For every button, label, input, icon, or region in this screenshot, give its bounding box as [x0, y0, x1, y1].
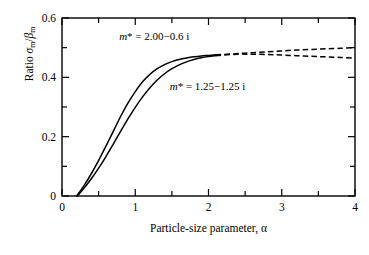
y-axis-title-denominator: β	[23, 33, 35, 39]
annotation-0-imaginary: 0.6 i	[170, 30, 190, 42]
y-axis-title-numerator-sub: m	[28, 42, 37, 48]
x-tick-label-4: 4	[352, 201, 358, 213]
figure-container: 0123400.20.40.6 Particle-size parameter,…	[0, 0, 369, 255]
curve-dashed-1	[216, 54, 355, 58]
annotation-0-star: *	[127, 30, 133, 42]
series-annotation-0: m* = 2.00−0.6 i	[119, 30, 189, 42]
x-tick-label-0: 0	[59, 201, 65, 213]
axis-ticks	[62, 18, 355, 196]
y-axis-title-slash: /	[23, 39, 35, 42]
annotation-1-imaginary: 1.25 i	[220, 80, 245, 92]
axis-frame	[62, 18, 355, 196]
annotation-0-equals: = 2.00	[135, 30, 163, 42]
y-axis-title-numerator: σ	[23, 48, 35, 54]
x-tick-label-3: 3	[279, 201, 285, 213]
curve-solid-0	[77, 55, 216, 196]
annotation-1-symbol: m	[170, 80, 178, 92]
annotation-1-star: *	[178, 80, 184, 92]
data-curves	[77, 48, 355, 196]
annotation-1-equals: = 1.25	[186, 80, 214, 92]
x-axis-title: Particle-size parameter, α	[62, 222, 355, 234]
y-tick-label-0: 0	[22, 190, 56, 202]
y-axis-title-prefix: Ratio	[23, 53, 35, 81]
y-axis-title: Ratio σm/βm	[23, 0, 37, 134]
x-tick-label-1: 1	[132, 201, 138, 213]
y-axis-title-denominator-sub: m	[28, 27, 37, 33]
annotation-0-symbol: m	[119, 30, 127, 42]
series-annotation-1: m* = 1.25−1.25 i	[170, 80, 246, 92]
x-tick-label-2: 2	[206, 201, 212, 213]
